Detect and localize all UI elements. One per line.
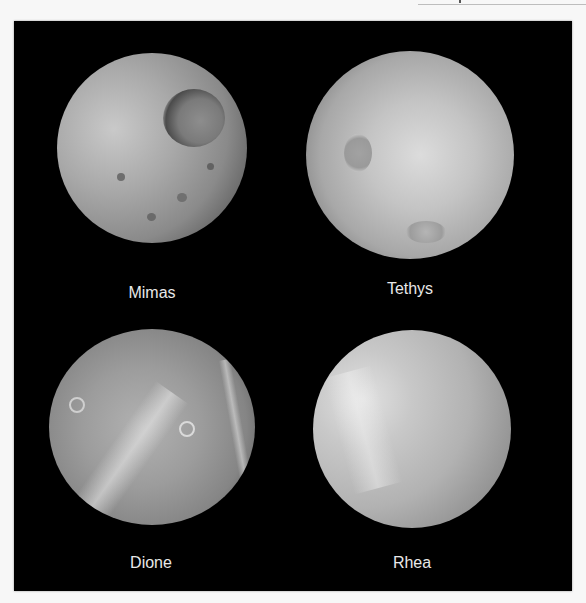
wispy-fractures: [323, 366, 402, 495]
crater: [117, 173, 125, 181]
page-edge-mark: [459, 0, 461, 3]
moons-figure-panel: Mimas Tethys Dione Rhea: [14, 21, 572, 591]
tethys-image: [306, 51, 514, 259]
dione-label: Dione: [91, 554, 211, 572]
crater: [179, 421, 195, 437]
crater: [177, 193, 187, 202]
crater: [147, 213, 156, 221]
herschel-crater: [163, 89, 225, 147]
crater: [207, 163, 214, 170]
page-edge-line: [418, 4, 586, 5]
mimas-image: [57, 53, 247, 243]
mimas-label: Mimas: [92, 284, 212, 302]
wispy-terrain: [219, 359, 252, 479]
dione-image: [49, 329, 255, 525]
crater: [69, 397, 85, 413]
melanthius-crater: [344, 134, 372, 172]
rhea-label: Rhea: [352, 554, 472, 572]
crater: [406, 221, 446, 243]
rhea-image: [313, 330, 511, 528]
wispy-terrain: [70, 381, 189, 525]
tethys-label: Tethys: [350, 280, 470, 298]
